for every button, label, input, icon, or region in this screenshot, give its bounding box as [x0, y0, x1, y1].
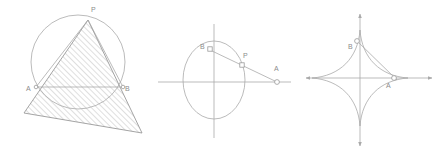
label-P-panel1: P [91, 6, 96, 13]
label-A-panel2: A [274, 65, 279, 72]
label-A-panel1: A [26, 85, 31, 92]
label-A-panel3: A [386, 82, 391, 89]
geometry-figure-canvas: P A B B P A B A [0, 0, 442, 155]
point-B-marker-panel3 [355, 39, 360, 44]
point-A-marker-panel2 [275, 80, 280, 85]
point-B-marker-panel2 [208, 47, 212, 51]
figure-board: P A B B P A B A [0, 0, 442, 155]
label-B-panel1: B [125, 85, 130, 92]
panel-astroid-tangent: B A [306, 14, 432, 146]
tangent-segment-B-A [356, 40, 397, 80]
point-A-marker [34, 85, 38, 89]
panel-inscribed-triangle: P A B [24, 6, 142, 133]
point-P-marker-panel2 [240, 63, 244, 67]
label-B-panel2: B [200, 43, 205, 50]
label-P-panel2: P [243, 52, 248, 59]
label-B-panel3: B [348, 43, 353, 50]
panel-ellipse-secant: B P A [158, 24, 291, 138]
point-A-marker-panel3 [392, 76, 397, 81]
